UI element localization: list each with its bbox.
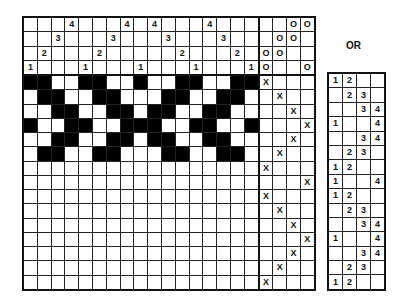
liftplan-cell: 4 <box>371 117 386 131</box>
drawdown-row: X <box>23 147 315 161</box>
threading-cell <box>51 46 65 60</box>
liftplan-cell: 4 <box>371 174 386 188</box>
drawdown-cell <box>217 247 231 261</box>
drawdown-cell <box>217 104 231 118</box>
drawdown-cell <box>189 232 203 246</box>
liftplan-cell: 2 <box>343 261 357 275</box>
drawdown-cell <box>203 104 217 118</box>
treadling-cell <box>300 75 314 90</box>
drawdown-cell <box>230 104 244 118</box>
drawdown-cell <box>134 175 148 189</box>
threading-cell <box>203 60 217 75</box>
liftplan-row: 14 <box>328 232 385 246</box>
treadling-cell: X <box>259 75 273 90</box>
drawdown-cell <box>203 204 217 218</box>
drawdown-cell <box>37 133 51 147</box>
treadling-cell <box>300 247 314 261</box>
treadling-cell <box>300 90 314 104</box>
liftplan-cell: 1 <box>328 117 343 131</box>
drawdown-cell <box>37 190 51 204</box>
drawdown-cell <box>217 147 231 161</box>
drawdown-cell <box>230 218 244 232</box>
drawdown-cell <box>175 147 189 161</box>
drawdown-cell <box>175 204 189 218</box>
drawdown-cell <box>161 133 175 147</box>
drawdown-cell <box>79 161 93 175</box>
drawdown-cell <box>92 133 106 147</box>
liftplan-cell: 4 <box>371 131 386 145</box>
drawdown-cell <box>134 204 148 218</box>
drawdown-cell <box>244 275 258 290</box>
drawdown-cell <box>203 190 217 204</box>
drawdown-cell <box>106 90 120 104</box>
treadling-cell: X <box>287 133 301 147</box>
threading-cell: 2 <box>230 46 244 60</box>
threading-cell <box>203 32 217 46</box>
drawdown-cell <box>92 204 106 218</box>
treadling-cell <box>273 175 287 189</box>
liftplan-row: 12 <box>328 189 385 203</box>
treadling-cell <box>273 75 287 90</box>
drawdown-cell <box>106 218 120 232</box>
liftplan-cell: 3 <box>357 217 371 231</box>
treadling-cell <box>300 190 314 204</box>
drawdown-cell <box>51 161 65 175</box>
threading-cell <box>23 17 37 32</box>
treadling-cell <box>300 261 314 275</box>
liftplan-cell: 2 <box>343 73 357 88</box>
drawdown-cell <box>134 190 148 204</box>
drawdown-cell <box>203 133 217 147</box>
drawdown-cell <box>51 190 65 204</box>
tieup-cell: O <box>273 32 287 46</box>
treadling-cell <box>287 90 301 104</box>
threading-cell <box>120 32 134 46</box>
treadling-cell <box>259 204 273 218</box>
drawdown-cell <box>37 261 51 275</box>
liftplan-cell <box>371 189 386 203</box>
drawdown-cell <box>217 118 231 132</box>
liftplan-cell <box>357 189 371 203</box>
liftplan-cell: 2 <box>343 145 357 159</box>
drawdown-cell <box>51 261 65 275</box>
liftplan-cell: 3 <box>357 246 371 260</box>
drawdown-cell <box>120 90 134 104</box>
threading-cell: 1 <box>23 60 37 75</box>
drawdown-cell <box>189 175 203 189</box>
drawdown-cell <box>23 104 37 118</box>
tieup-cell <box>273 60 287 75</box>
drawdown-cell <box>230 75 244 90</box>
drawdown-cell <box>23 190 37 204</box>
threading-cell <box>189 17 203 32</box>
liftplan-row: 14 <box>328 117 385 131</box>
drawdown-cell <box>161 147 175 161</box>
liftplan-cell <box>328 131 343 145</box>
drawdown-cell <box>65 75 79 90</box>
treadling-cell <box>259 90 273 104</box>
drawdown-cell <box>230 204 244 218</box>
drawdown-cell <box>244 247 258 261</box>
drawdown-cell <box>79 147 93 161</box>
liftplan-cell <box>328 217 343 231</box>
threading-cell <box>92 32 106 46</box>
threading-cell: 1 <box>244 60 258 75</box>
drawdown-cell <box>134 75 148 90</box>
treadling-cell: X <box>287 104 301 118</box>
threading-cell <box>120 46 134 60</box>
threading-cell <box>189 32 203 46</box>
drawdown-cell <box>92 275 106 290</box>
treadling-cell <box>273 161 287 175</box>
tieup-cell: O <box>273 46 287 60</box>
liftplan-cell <box>328 145 343 159</box>
drawdown-cell <box>148 232 162 246</box>
drawdown-cell <box>51 118 65 132</box>
threading-cell: 2 <box>175 46 189 60</box>
drawdown-cell <box>161 90 175 104</box>
drawdown-cell <box>37 232 51 246</box>
drawdown-cell <box>161 190 175 204</box>
threading-cell: 4 <box>203 17 217 32</box>
drawdown-cell <box>203 118 217 132</box>
drawdown-cell <box>161 204 175 218</box>
threading-row: 3333OO <box>23 32 315 46</box>
drawdown-cell <box>244 204 258 218</box>
liftplan-cell <box>343 246 357 260</box>
